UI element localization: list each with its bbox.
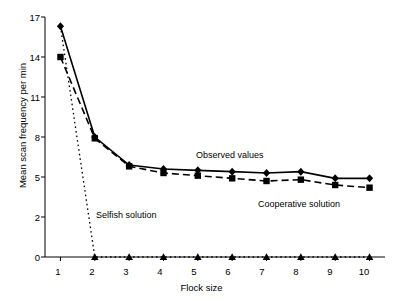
- plot-area: [0, 0, 403, 301]
- series-layer: [57, 22, 373, 260]
- chart-container: Mean scan frequency per min Flock size 1…: [0, 0, 403, 301]
- series-observed-values: [57, 22, 373, 182]
- series-selfish-solution: [60, 26, 373, 260]
- y-tick-marks: [41, 17, 45, 257]
